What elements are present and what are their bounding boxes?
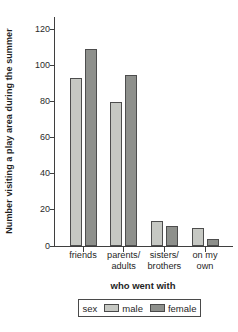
bar-male-0: [70, 78, 82, 246]
bar-female-3: [207, 239, 219, 246]
y-axis-tick: [50, 29, 55, 30]
y-axis-tick: [50, 101, 55, 102]
bar-female-2: [166, 226, 178, 246]
legend-title: sex: [83, 303, 98, 314]
bar-male-3: [192, 228, 204, 246]
y-axis-tick-label: 20: [22, 204, 50, 215]
y-axis-tick: [50, 65, 55, 66]
legend-label-male: male: [122, 303, 143, 314]
plot-area: 020406080100120friendsparents/ adultssis…: [54, 17, 233, 247]
bar-male-1: [110, 102, 122, 246]
y-axis-tick-label: 80: [22, 96, 50, 107]
legend-swatch-male: [104, 304, 119, 312]
bar-female-0: [85, 49, 97, 246]
y-axis-tick-label: 120: [22, 24, 50, 35]
legend-entry-female: female: [150, 303, 197, 314]
y-axis-tick-label: 40: [22, 168, 50, 179]
legend-entries: malefemale: [104, 303, 196, 314]
y-axis-tick: [50, 137, 55, 138]
legend-box: sex malefemale: [78, 299, 201, 317]
legend-entry-male: male: [104, 303, 143, 314]
bar-chart-figure: Number visiting a play area during the s…: [0, 0, 238, 332]
y-axis-tick-label: 0: [22, 241, 50, 252]
y-axis-title: Number visiting a play area during the s…: [4, 28, 14, 234]
legend-label-female: female: [168, 303, 197, 314]
y-axis-tick-label: 60: [22, 132, 50, 143]
y-axis-tick-label: 100: [22, 60, 50, 71]
y-axis-tick: [50, 173, 55, 174]
y-axis-tick: [50, 209, 55, 210]
bar-male-2: [151, 221, 163, 246]
bar-female-1: [125, 75, 137, 246]
y-axis-tick: [50, 246, 55, 247]
legend-swatch-female: [150, 304, 165, 312]
x-axis-title: who went with: [54, 280, 232, 291]
x-axis-category-label: on my own: [171, 250, 238, 272]
